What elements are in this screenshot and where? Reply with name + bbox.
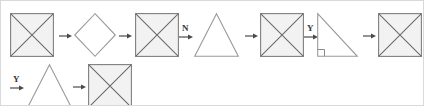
arrow-right	[59, 32, 73, 40]
arrow-right	[73, 83, 87, 91]
arrow-right-labeled	[10, 85, 25, 93]
diamond	[74, 13, 116, 57]
arrow-right	[363, 32, 377, 40]
square-with-diagonals	[135, 13, 179, 57]
square-with-diagonals	[260, 13, 304, 57]
arrow-right-labeled	[179, 34, 194, 42]
operation-label-n: N	[182, 24, 189, 33]
operation-label-y-1: Y	[307, 24, 314, 33]
geometric-sequence-figure: N Y	[0, 0, 424, 106]
arrow-right	[245, 32, 259, 40]
square-with-diagonals	[378, 13, 422, 57]
square-with-diagonals	[10, 13, 54, 57]
arrow-right	[119, 32, 133, 40]
triangle	[27, 64, 72, 106]
right-triangle	[317, 13, 358, 57]
square-with-diagonals	[88, 64, 132, 106]
operation-label-y-2: Y	[13, 75, 20, 84]
triangle	[194, 13, 239, 57]
